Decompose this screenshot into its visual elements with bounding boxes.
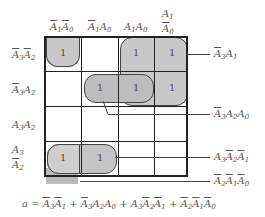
col-header-2: A1A0 (124, 22, 147, 34)
annotation-g4: A2A1A0 (214, 176, 249, 188)
leader-g3 (115, 157, 210, 158)
row-header-0: A3A2 (12, 50, 35, 62)
cell-r0-c2: 1 (118, 48, 154, 58)
grid-outer-bottom (44, 175, 188, 177)
cell-r1-c3: 1 (154, 83, 190, 93)
grid-outer-top (44, 36, 188, 38)
grid-row-1 (44, 71, 188, 72)
cell-r3-c1: 1 (82, 153, 118, 163)
row-header-2: A3A2 (12, 120, 35, 132)
annotation-g1: A3A1 (214, 49, 237, 61)
leader-g4 (80, 181, 210, 182)
cell-r1-c1: 1 (82, 83, 118, 93)
col-header-0: A1A0 (50, 22, 73, 34)
leader-g2-vertical (103, 101, 108, 114)
cell-r3-c0: 1 (45, 153, 81, 163)
col-header-1: A1A0 (88, 22, 111, 34)
annotation-g3: A3A2A1 (214, 152, 249, 164)
col-header-3: A1 A0 (162, 8, 174, 38)
cell-r0-c0: 1 (45, 48, 81, 58)
grid-row-3 (44, 141, 188, 142)
leader-g1 (186, 54, 210, 55)
row-header-1: A3A2 (12, 85, 35, 97)
cell-r0-c3: 1 (154, 48, 190, 58)
leader-g2-horizontal (108, 114, 210, 115)
cell-r1-c2: 1 (118, 83, 154, 93)
equation: a = A3A1 + A3A2A0 + A3A2A1 + A2A1A0 (22, 199, 216, 211)
row-header-3: A3 A2 (12, 144, 24, 174)
grid-row-2 (44, 106, 188, 107)
annotation-g2: A3A2A0 (214, 109, 249, 121)
